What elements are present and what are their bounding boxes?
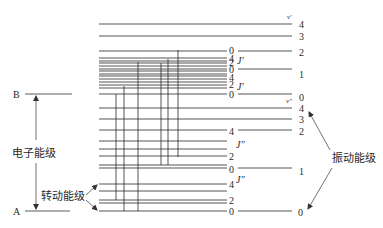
lower-rot-v0-j2-label: 2	[229, 195, 234, 206]
lower-vib-1-label: 1	[299, 166, 304, 177]
vibrational-level-label: 振动能级	[332, 151, 376, 165]
upper-vib-4-label: 4	[299, 19, 304, 30]
electronic-state-b-label: B	[13, 89, 20, 100]
upper-rot-v0-j0-label: 0	[229, 89, 234, 100]
upper-vib-2-label: 2	[299, 47, 304, 58]
lower-vib-2-label: 2	[299, 126, 304, 137]
diagram-canvas: B A 电子能级 转动能级 振动能级 ν′ 4 3 2 1 0 ν″ 4 3 2…	[0, 0, 383, 228]
lower-rot-v1-j2-label: 2	[229, 151, 234, 162]
lower-rot-symbol-v1: J″	[236, 139, 245, 150]
lower-vib-symbol: ν″	[286, 97, 292, 105]
lower-vib-0-label: 0	[298, 207, 303, 218]
rotational-arrow-up	[86, 185, 97, 195]
rotational-level-label: 转动能级	[41, 189, 85, 203]
upper-vib-0-label: 0	[299, 92, 304, 103]
upper-vib-3-label: 3	[299, 31, 304, 42]
vibrational-arrow-down	[308, 168, 332, 209]
lower-rot-v0-j0-label: 0	[229, 206, 234, 217]
upper-rot-symbol-v0: J′	[237, 81, 244, 92]
vibrational-arrow-up	[309, 112, 330, 150]
energy-levels	[99, 24, 292, 211]
lower-rot-v2-j4-label: 4	[229, 126, 234, 137]
lower-rot-v0-j4-label: 4	[229, 179, 234, 190]
lower-rot-symbol-v0: J″	[236, 174, 245, 185]
upper-rot-symbol-v1: J′	[237, 55, 244, 66]
rotational-arrow-down	[86, 200, 97, 210]
lower-vib-3-label: 3	[299, 114, 304, 125]
electronic-state-a-label: A	[13, 206, 21, 217]
energy-level-diagram: B A 电子能级 转动能级 振动能级 ν′ 4 3 2 1 0 ν″ 4 3 2…	[0, 0, 383, 228]
lower-vib-4-label: 4	[299, 103, 304, 114]
upper-vib-1-label: 1	[299, 69, 304, 80]
electronic-level-label: 电子能级	[12, 146, 56, 160]
upper-vib-symbol: ν′	[287, 13, 292, 21]
lower-rot-v1-j0-label: 0	[229, 164, 234, 175]
